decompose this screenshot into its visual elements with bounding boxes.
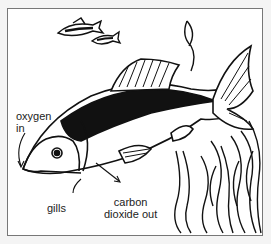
carbon-dioxide-out-label: carbon dioxide out — [104, 196, 157, 220]
co2-label-line2: dioxide out — [104, 208, 157, 220]
gills-label: gills — [47, 202, 66, 214]
small-fish-icon — [58, 18, 120, 44]
oxygen-in-label: oxygen in — [16, 110, 51, 134]
oxygen-in-label-line1: oxygen — [16, 110, 51, 122]
gills-pointer — [73, 179, 81, 193]
co2-label-line1: carbon — [104, 196, 157, 208]
oxygen-in-label-line2: in — [16, 122, 51, 134]
co2-arrow — [96, 163, 119, 181]
